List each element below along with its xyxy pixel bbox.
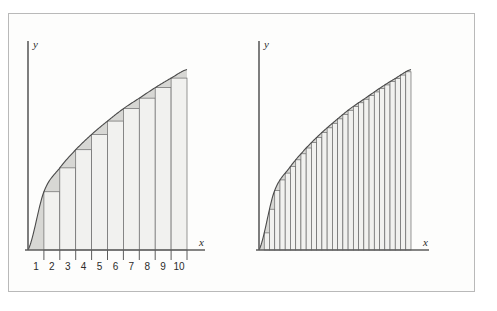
- right-chart-svg: [239, 14, 476, 293]
- right-y-axis-label: y: [264, 39, 269, 50]
- left-y-axis-label: y: [33, 39, 38, 50]
- left-riemann-sum-panel: y x 12345678910: [9, 14, 239, 293]
- figure-frame: y x 12345678910 y x: [8, 13, 475, 292]
- left-x-axis-label: x: [199, 237, 204, 248]
- right-riemann-sum-panel: y x: [239, 14, 476, 293]
- figure-page: y x 12345678910 y x: [0, 0, 497, 311]
- x-tick-label: 10: [170, 262, 188, 272]
- right-x-axis-label: x: [423, 237, 428, 248]
- left-chart-svg: [9, 14, 239, 293]
